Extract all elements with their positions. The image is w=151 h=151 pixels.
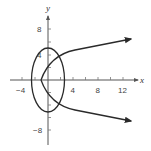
tick-label-y-neg8: −8: [33, 126, 43, 135]
parabola-upper-branch: [41, 39, 131, 80]
tick-label-x-12: 12: [118, 86, 127, 95]
tick-label-y-4: 4: [37, 51, 42, 60]
y-axis-label: y: [45, 3, 50, 13]
chart-canvas: −4 4 8 12 8 4 −8 x y: [0, 0, 151, 151]
x-axis-label: x: [139, 75, 144, 85]
x-axis: [10, 77, 138, 80]
tick-label-x-8: 8: [96, 86, 101, 95]
tick-label-x-neg4: −4: [16, 86, 26, 95]
tick-label-x-4: 4: [71, 86, 76, 95]
tick-label-y-8: 8: [37, 25, 42, 34]
